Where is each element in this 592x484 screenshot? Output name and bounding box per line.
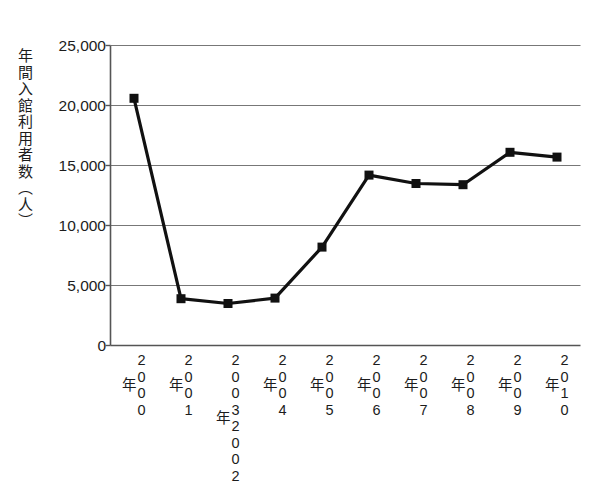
data-point-marker bbox=[271, 294, 280, 303]
x-tick-label: 2005年 bbox=[308, 352, 337, 418]
x-tick-year-primary: 2009 bbox=[510, 352, 525, 418]
x-tick-label: 2001年 bbox=[167, 352, 196, 418]
data-point-marker bbox=[177, 294, 186, 303]
x-tick-year-primary: 2006 bbox=[369, 352, 384, 418]
x-tick-year-suffix: 年 bbox=[308, 377, 323, 393]
x-tick-year-primary: 2002 bbox=[228, 418, 243, 484]
x-tick-year-primary: 2001 bbox=[181, 352, 196, 418]
data-point-marker bbox=[130, 94, 139, 103]
x-tick-year-suffix: 年 bbox=[120, 377, 135, 393]
data-point-marker bbox=[412, 179, 421, 188]
x-tick-year-primary: 2008 bbox=[463, 352, 478, 418]
x-tick-year-suffix: 年 bbox=[449, 377, 464, 393]
x-tick-label: 2007年 bbox=[402, 352, 431, 418]
x-tick-year-suffix: 年 bbox=[402, 377, 417, 393]
x-tick-year-suffix: 年 bbox=[496, 377, 511, 393]
data-point-marker bbox=[318, 243, 327, 252]
x-tick-year-secondary: 2003 bbox=[228, 352, 243, 418]
x-tick-year-suffix: 年 bbox=[167, 377, 182, 393]
data-point-marker bbox=[553, 153, 562, 162]
x-tick-year-primary: 2007 bbox=[416, 352, 431, 418]
x-tick-label: 2010年 bbox=[543, 352, 572, 418]
x-tick-year-primary: 2010 bbox=[557, 352, 572, 418]
x-tick-label: 2006年 bbox=[355, 352, 384, 418]
x-tick-year-primary: 2004 bbox=[275, 352, 290, 418]
data-point-marker bbox=[224, 299, 233, 308]
x-tick-label: 2004年 bbox=[261, 352, 290, 418]
x-tick-year-suffix: 年 bbox=[355, 377, 370, 393]
data-point-marker bbox=[365, 171, 374, 180]
x-tick-year-suffix: 年 bbox=[214, 410, 229, 426]
x-tick-year-suffix: 年 bbox=[543, 377, 558, 393]
x-tick-label: 2009年 bbox=[496, 352, 525, 418]
data-point-marker bbox=[459, 180, 468, 189]
x-tick-year-primary: 2005 bbox=[322, 352, 337, 418]
data-point-marker bbox=[506, 148, 515, 157]
x-tick-label: 2008年 bbox=[449, 352, 478, 418]
x-tick-year-suffix: 年 bbox=[261, 377, 276, 393]
data-markers bbox=[130, 94, 562, 308]
x-tick-label: 20022003年 bbox=[214, 352, 243, 484]
x-tick-year-primary: 2000 bbox=[134, 352, 149, 418]
x-tick-label: 2000年 bbox=[120, 352, 149, 418]
data-line bbox=[134, 98, 557, 303]
